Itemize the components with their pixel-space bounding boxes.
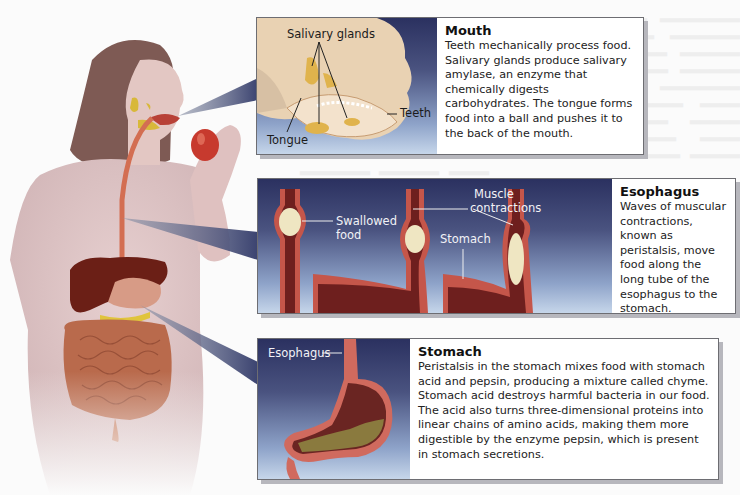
mouth-title: Mouth [445, 23, 635, 39]
mouth-panel: Salivary glands Teeth Tongue Mouth Teeth… [256, 17, 644, 155]
peristalsis-illustration: Swallowed food Muscle contractions Stoma… [258, 179, 612, 313]
label-contractions: contractions [470, 201, 541, 215]
label-swallowed: Swallowed [336, 214, 397, 228]
stomach-description: Peristalsis in the stomach mixes food wi… [418, 360, 710, 462]
label-muscle: Muscle [474, 187, 514, 201]
mouth-description: Teeth mechanically process food. Salivar… [445, 39, 635, 141]
label-tongue: Tongue [267, 133, 308, 147]
label-esophagus: Esophagus [268, 346, 331, 360]
label-stomach: Stomach [440, 232, 491, 246]
stomach-title: Stomach [418, 344, 710, 360]
esophagus-title: Esophagus [620, 184, 727, 200]
esophagus-description: Waves of muscular contractions, known as… [620, 200, 727, 317]
stomach-panel: Esophagus Stomach Peristalsis in the sto… [257, 338, 719, 480]
stomach-cross-section [258, 339, 410, 479]
stomach-illustration: Esophagus [258, 339, 410, 479]
label-salivary-glands: Salivary glands [287, 27, 375, 41]
esophagus-panel: Swallowed food Muscle contractions Stoma… [257, 178, 736, 314]
label-food: food [336, 228, 361, 242]
woman-digestive-figure [0, 0, 270, 495]
esophagus-sequence-illustration [258, 179, 612, 313]
mouth-illustration: Salivary glands Teeth Tongue [257, 18, 437, 154]
label-teeth: Teeth [400, 106, 431, 120]
